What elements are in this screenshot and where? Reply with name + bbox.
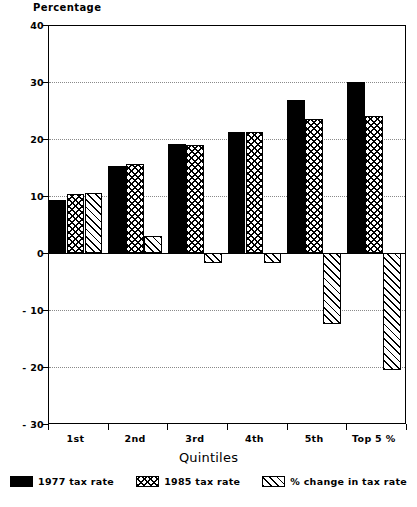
chart-figure: Percentage 403020100- 10- 20- 30 Quintil…: [0, 0, 417, 507]
bar: [305, 119, 323, 253]
y-axis-tick-label: - 30: [0, 419, 44, 430]
y-axis-title: Percentage: [33, 2, 101, 13]
y-axis-tick-label: 30: [0, 77, 44, 88]
legend-label: % change in tax rate: [290, 476, 407, 487]
y-axis-tick-mark: [42, 196, 48, 197]
bar: [264, 253, 282, 263]
x-axis-tick-mark: [227, 424, 228, 430]
x-axis-tick-label: 3rd: [185, 433, 204, 444]
bar: [287, 100, 305, 253]
y-axis-tick-mark: [42, 25, 48, 26]
legend-label: 1977 tax rate: [38, 476, 114, 487]
y-axis-tick-label: 10: [0, 191, 44, 202]
bar: [383, 253, 401, 370]
legend-label: 1985 tax rate: [164, 476, 240, 487]
y-axis-tick-mark: [42, 139, 48, 140]
x-axis-tick-label: 4th: [245, 433, 264, 444]
bar: [126, 164, 144, 253]
legend-item: 1977 tax rate: [10, 476, 114, 487]
bar: [323, 253, 341, 324]
bar: [168, 144, 186, 253]
bar: [246, 132, 264, 253]
bar: [144, 236, 162, 253]
legend-item: % change in tax rate: [262, 476, 407, 487]
y-axis-tick-label: - 10: [0, 305, 44, 316]
bar: [365, 116, 383, 253]
bar: [108, 166, 126, 253]
y-axis-tick-mark: [42, 253, 48, 254]
y-axis-tick-label: - 20: [0, 362, 44, 373]
legend-swatch-icon: [136, 476, 159, 487]
x-axis-tick-label: 5th: [305, 433, 324, 444]
y-axis-tick-mark: [42, 310, 48, 311]
y-axis-tick-label: 20: [0, 134, 44, 145]
gridline: [49, 367, 405, 368]
x-axis-tick-mark: [108, 424, 109, 430]
bar: [204, 253, 222, 263]
bar: [186, 145, 204, 253]
x-axis-tick-label: 1st: [67, 433, 85, 444]
x-axis-tick-mark: [406, 424, 407, 430]
y-axis-tick-mark: [42, 82, 48, 83]
x-axis-tick-mark: [287, 424, 288, 430]
y-axis-tick-mark: [42, 367, 48, 368]
gridline: [49, 310, 405, 311]
x-axis-title: Quintiles: [0, 450, 417, 465]
y-axis-tick-label: 0: [0, 248, 44, 259]
legend-swatch-icon: [10, 476, 33, 487]
y-axis-tick-label: 40: [0, 20, 44, 31]
legend-item: 1985 tax rate: [136, 476, 240, 487]
x-axis-tick-label: Top 5 %: [352, 433, 395, 444]
x-axis-tick-mark: [346, 424, 347, 430]
x-axis-tick-label: 2nd: [125, 433, 146, 444]
bar: [67, 194, 85, 253]
x-axis-tick-mark: [167, 424, 168, 430]
bar: [347, 82, 365, 253]
zero-line: [49, 253, 405, 254]
x-axis-tick-mark: [48, 424, 49, 430]
chart-legend: 1977 tax rate1985 tax rate% change in ta…: [0, 476, 417, 487]
legend-swatch-icon: [262, 476, 285, 487]
bar: [49, 200, 67, 253]
bar: [228, 132, 246, 253]
bar: [85, 193, 103, 253]
